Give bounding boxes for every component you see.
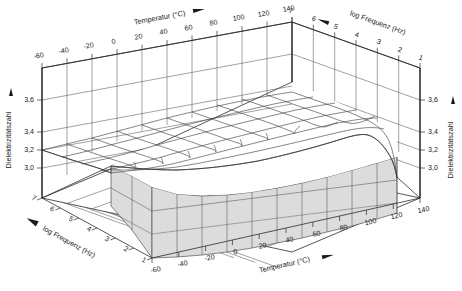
- axis-value-left: 3,6 3,4 3,2 3,0 Dielektrizitätszahl: [4, 68, 42, 198]
- tick-freq-bot-5: 2: [122, 245, 129, 254]
- arrow-right-icon-temp-bottom: [322, 253, 335, 260]
- tick-freq-top-4: 3: [375, 38, 381, 47]
- arrow-up-icon-value-right: [451, 96, 455, 104]
- tick-temp-top-4: 20: [134, 32, 143, 41]
- tick-temp-top-8: 100: [232, 13, 245, 23]
- tick-freq-bot-1: 6: [48, 205, 55, 214]
- axis-value-right-ticks: [420, 100, 425, 168]
- axis-title-value-left: Dielektrizitätszahl: [4, 111, 13, 168]
- tick-value-right-1: 3,4: [428, 128, 438, 136]
- tick-freq-top-3: 4: [353, 31, 359, 40]
- tick-temp-top-6: 60: [184, 23, 193, 32]
- tick-temp-bot-8: 100: [364, 217, 377, 227]
- arrow-left-icon-freq-top: [317, 17, 330, 25]
- tick-value-right-0: 3,6: [428, 96, 438, 104]
- axis-title-temperature-top: Temperatur (°C): [133, 8, 186, 26]
- tick-value-left-0: 3,6: [24, 96, 34, 104]
- tick-temp-top-3: 0: [111, 38, 116, 47]
- axis-frequency-top: 7 6 5 4 3 2 1 log Frequenz (Hz): [287, 7, 423, 68]
- tick-freq-top-5: 2: [396, 46, 402, 55]
- tick-temp-bot-0: -60: [150, 265, 162, 275]
- tick-freq-top-2: 5: [332, 23, 338, 32]
- tick-freq-top-1: 6: [310, 15, 316, 24]
- surface-plot-figure: -60 -40 -20 0 20 40 60 80 100 120 140 Te…: [0, 0, 462, 291]
- tick-temp-top-2: -20: [83, 41, 95, 51]
- tick-value-right-2: 3,2: [428, 146, 438, 154]
- tick-value-left-3: 3,0: [24, 164, 34, 172]
- axis-value-right: 3,6 3,4 3,2 3,0 Dielektrizitätszahl: [420, 68, 455, 198]
- tick-temp-top-1: -40: [58, 46, 70, 56]
- axis-title-temperature-bottom: Temperatur (°C): [258, 254, 311, 274]
- tick-temp-bot-1: -40: [177, 259, 189, 269]
- tick-temp-top-5: 40: [159, 27, 168, 36]
- tick-freq-bot-0: 7: [30, 194, 37, 203]
- tick-temp-bot-10: 140: [417, 205, 430, 215]
- arrow-up-icon-value-left: [9, 88, 13, 96]
- axis-temperature-top: -60 -40 -20 0 20 40 60 80 100 120 140 Te…: [33, 4, 295, 68]
- axis-value-left-ticks: [37, 100, 42, 168]
- tick-freq-bot-3: 4: [85, 225, 92, 234]
- arrow-right-icon-temp-top: [193, 7, 206, 13]
- tick-temp-bot-2: -20: [204, 253, 216, 263]
- plot-canvas: -60 -40 -20 0 20 40 60 80 100 120 140 Te…: [0, 0, 462, 291]
- tick-freq-bot-4: 3: [103, 235, 110, 244]
- tick-freq-top-6: 1: [417, 54, 423, 63]
- tick-value-left-2: 3,2: [24, 146, 34, 154]
- tick-temp-bot-9: 120: [390, 211, 403, 221]
- tick-freq-bot-6: 1: [140, 256, 147, 265]
- tick-value-left-1: 3,4: [24, 128, 34, 136]
- tick-temp-top-0: -60: [33, 51, 45, 61]
- tick-value-right-3: 3,0: [428, 164, 438, 172]
- tick-temp-top-7: 80: [209, 18, 218, 27]
- arrow-left-icon-freq-bottom: [25, 215, 38, 226]
- tick-temp-top-9: 120: [257, 9, 270, 19]
- tick-freq-bot-2: 5: [67, 215, 74, 224]
- axis-title-value-right: Dielektrizitätszahl: [446, 121, 455, 178]
